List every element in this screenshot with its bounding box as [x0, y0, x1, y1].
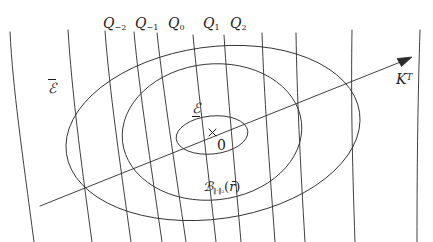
- label-q-minus-1-sub: −1: [146, 23, 158, 32]
- figure-canvas: Q−2 Q−1 Q0 Q1 Q2 ℰ ℰ ℬ‖·‖₂(r̄) KT 0: [0, 0, 433, 242]
- label-outer-ellipse-text: ℰ: [48, 79, 56, 95]
- q-curve: [224, 35, 241, 242]
- q-curve: [352, 30, 355, 242]
- inner-ellipse: [174, 112, 250, 157]
- label-inner-ellipse-text: ℰ: [192, 101, 200, 117]
- label-q-minus-2: Q−2: [103, 16, 126, 32]
- label-q-1: Q1: [203, 16, 220, 32]
- label-ball-base: ℬ: [203, 179, 213, 194]
- label-q-minus-1: Q−1: [135, 16, 158, 32]
- label-q-0: Q0: [168, 16, 185, 32]
- label-inner-ellipse: ℰ: [192, 101, 200, 117]
- q-curve: [68, 30, 92, 242]
- label-q-0-base: Q: [168, 15, 179, 31]
- q-curve: [105, 31, 131, 242]
- q-curve: [417, 30, 420, 242]
- label-q-minus-2-base: Q: [103, 15, 114, 31]
- label-q-2-base: Q: [230, 15, 241, 31]
- label-q-minus-1-base: Q: [135, 15, 146, 31]
- q-curve: [193, 35, 216, 242]
- label-ball: ℬ‖·‖₂(r̄): [203, 180, 240, 195]
- q-curve: [262, 33, 275, 242]
- label-outer-ellipse: ℰ: [48, 79, 56, 95]
- q-curve: [157, 33, 186, 242]
- label-ball-radius: r̄: [229, 179, 235, 194]
- diagram-svg: [0, 0, 433, 242]
- label-q-1-base: Q: [203, 15, 214, 31]
- q-curve: [134, 32, 162, 242]
- label-axis-arrow: KT: [396, 72, 412, 86]
- label-axis-arrow-base: K: [396, 71, 406, 87]
- label-q-2-sub: 2: [241, 23, 246, 32]
- label-q-minus-2-sub: −2: [114, 23, 126, 32]
- axis-arrow-head: [397, 57, 412, 67]
- origin-marker: [209, 129, 216, 136]
- label-ball-arg: (r̄): [224, 179, 240, 194]
- label-q-2: Q2: [230, 16, 247, 32]
- label-axis-arrow-sup: T: [406, 72, 412, 82]
- q-curve: [10, 32, 34, 242]
- label-ball-subscript: ‖·‖₂: [213, 187, 224, 195]
- label-q-1-sub: 1: [214, 23, 219, 32]
- label-q-0-sub: 0: [179, 23, 184, 32]
- label-origin: 0: [217, 138, 226, 152]
